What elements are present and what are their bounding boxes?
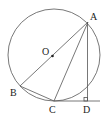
label-c: C bbox=[49, 104, 56, 114]
label-a: A bbox=[90, 11, 98, 22]
segment-bc bbox=[20, 86, 54, 101]
right-angle-marker bbox=[84, 98, 88, 102]
label-b: B bbox=[10, 87, 17, 98]
geometry-diagram: A B O C D bbox=[0, 0, 109, 114]
segment-ac bbox=[54, 22, 88, 101]
segment-ab-diameter bbox=[20, 22, 88, 86]
label-d: D bbox=[83, 104, 90, 114]
center-point-o bbox=[51, 55, 54, 58]
label-o: O bbox=[42, 46, 49, 57]
